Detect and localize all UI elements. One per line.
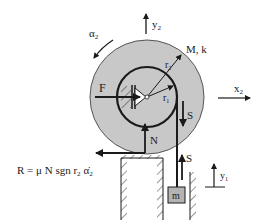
y1-axis: y1 — [205, 164, 228, 187]
mass-m-label: m — [172, 190, 180, 201]
y1-label: y1 — [220, 170, 228, 182]
y2-axis: y2 — [146, 14, 162, 34]
friction-formula: R = μ N sgn r2α̇2 — [17, 164, 93, 178]
center-pin — [145, 95, 149, 99]
guide-wall — [190, 172, 196, 220]
ground-support — [121, 155, 163, 220]
force-F-label: F — [99, 81, 106, 95]
alpha2-label: α2 — [89, 27, 99, 41]
alpha2-rotation: α2 — [89, 27, 113, 58]
x2-label: x2 — [234, 82, 244, 96]
mechanics-diagram: y2 α2 r2 r1 M, k x2 F S N — [0, 0, 265, 221]
force-N-label: N — [150, 134, 158, 146]
x2-axis: x2 — [218, 82, 250, 98]
force-S-bottom-label: S — [186, 152, 192, 164]
mass-properties-label: M, k — [186, 43, 207, 55]
y2-label: y2 — [152, 18, 162, 32]
force-S-top-label: S — [187, 109, 193, 121]
